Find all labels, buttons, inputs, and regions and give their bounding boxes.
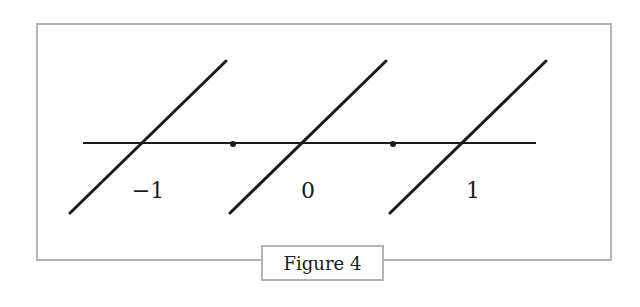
segment-label: 1 (466, 178, 480, 203)
endpoint-dot (230, 141, 236, 147)
segment-label: −1 (132, 178, 164, 203)
segment-label: 0 (301, 178, 315, 203)
labels-group: −101 (132, 178, 480, 203)
endpoint-dot (390, 141, 396, 147)
figure-caption: Figure 4 (261, 245, 384, 281)
figure-caption-text: Figure 4 (284, 253, 362, 274)
